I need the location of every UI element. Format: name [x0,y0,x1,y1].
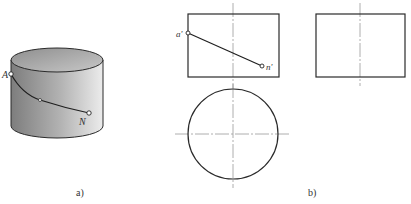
line-a-n [188,33,262,66]
caption-a: a) [76,187,84,199]
label-n-prime: n' [266,62,274,72]
caption-b: b) [308,187,316,199]
cylinder-3d-view: A N [1,48,103,138]
diagram-canvas: A N a) a' n' b) [0,0,411,204]
point-N-marker [87,111,91,115]
point-a-prime-marker [186,31,190,35]
cylinder-top-face [11,48,103,72]
front-view: a' n' [176,3,279,88]
side-view [316,3,405,86]
label-a-prime: a' [176,29,184,39]
point-A-marker [9,72,13,76]
point-n-prime-marker [260,64,264,68]
top-view [175,84,291,188]
midpoint-marker [39,99,42,102]
label-N: N [78,116,87,127]
side-view-rectangle [316,14,405,77]
label-A: A [1,69,9,80]
